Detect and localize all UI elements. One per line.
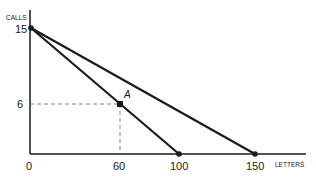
y-tick-15: 15 [15, 23, 27, 35]
x-tick-60: 60 [113, 160, 125, 172]
y-axis-label: CALLS [6, 14, 27, 21]
point-intercept-100 [176, 151, 182, 157]
x-axis-label: LETTERS [275, 161, 305, 168]
budget-line-150 [31, 28, 255, 154]
budget-line-100 [31, 28, 179, 154]
x-tick-0: 0 [26, 160, 32, 172]
point-a-marker [117, 101, 123, 107]
point-intercept-150 [252, 151, 258, 157]
x-tick-150: 150 [246, 160, 264, 172]
point-intercept-y [28, 25, 34, 31]
x-tick-100: 100 [170, 160, 188, 172]
budget-chart: CALLS 15 6 0 60 100 150 LETTERS A [0, 0, 316, 179]
y-tick-6: 6 [17, 98, 23, 110]
point-a-label: A [123, 89, 131, 100]
